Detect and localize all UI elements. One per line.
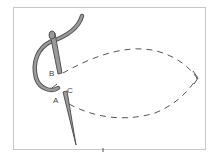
label-a: A <box>53 96 59 105</box>
dashed-stitch-outline <box>63 49 197 118</box>
stitch-diagram: B A C <box>0 0 215 161</box>
label-b: B <box>49 69 54 78</box>
needle-lower-icon <box>63 91 76 145</box>
label-c: C <box>67 86 73 95</box>
